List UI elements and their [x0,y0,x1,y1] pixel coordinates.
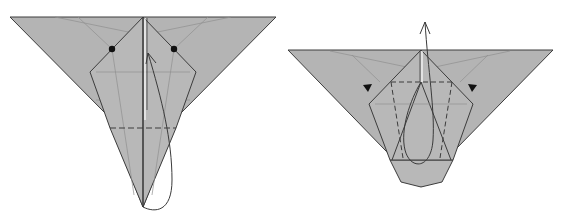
step-right [288,22,553,187]
origami-diagram [0,0,566,218]
bottom-point-flap [390,160,453,187]
step-left [10,17,276,210]
dot-left-icon [109,46,115,52]
dot-right-icon [171,46,177,52]
